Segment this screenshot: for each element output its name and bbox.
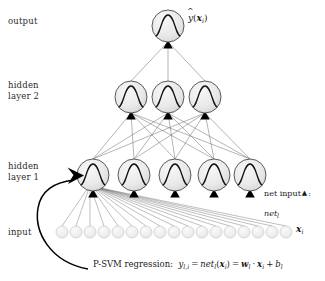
input-node: [224, 226, 236, 238]
caption-equals-1: =: [189, 259, 200, 269]
layer-label-hidden-1: hidden layer 1: [8, 161, 39, 183]
output-symbol-label: y(xi): [188, 13, 207, 24]
network-graphics: [0, 0, 325, 281]
input-symbol-label: xi: [296, 224, 303, 235]
paren-close: ): [204, 13, 208, 23]
output-layer-node: [152, 10, 184, 42]
input-node: [98, 226, 110, 238]
input-node: [196, 226, 208, 238]
x-subscript: i: [301, 228, 303, 235]
input-node: [70, 226, 82, 238]
net-subscript: l: [277, 212, 279, 219]
input-node: [154, 226, 166, 238]
input-node: [238, 226, 250, 238]
input-layer-nodes: [56, 226, 292, 238]
neural-network-diagram: output hidden layer 2 hidden layer 1 inp…: [0, 0, 325, 281]
input-node: [126, 226, 138, 238]
edges-hidden1-to-hidden2: [93, 113, 250, 159]
layer-label-input: input: [8, 227, 32, 238]
hidden-layer-2-nodes: [115, 81, 221, 113]
input-node: [56, 226, 68, 238]
edges-hidden2-to-output: [131, 44, 205, 81]
net-input-legend-colon: :: [308, 188, 311, 197]
layer-label-output: output: [8, 16, 38, 27]
input-node: [112, 226, 124, 238]
input-node: [140, 226, 152, 238]
net-input-legend: net input▲: netl: [264, 177, 311, 221]
caption-equals-2: =: [230, 259, 241, 269]
input-node: [280, 226, 292, 238]
psvm-regression-caption: P-SVM regression: yl,i=netl(xi)=wl·xi+bl: [93, 259, 283, 270]
hidden-layer-1-nodes: [77, 159, 266, 191]
input-node: [182, 226, 194, 238]
input-node: [252, 226, 264, 238]
y-hat-symbol: y: [188, 13, 193, 23]
input-node: [168, 226, 180, 238]
net-symbol: net: [264, 209, 277, 218]
caption-prefix: P-SVM regression:: [93, 259, 173, 269]
input-node: [84, 226, 96, 238]
net-input-legend-text: net input: [264, 188, 301, 197]
input-node: [210, 226, 222, 238]
input-node: [266, 226, 278, 238]
layer-label-hidden-2: hidden layer 2: [8, 80, 39, 102]
caption-plus-operator: +: [264, 259, 275, 269]
caption-b-subscript: l: [281, 263, 283, 270]
caption-net-base: net: [200, 259, 214, 269]
